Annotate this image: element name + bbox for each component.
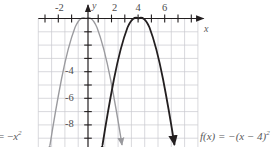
- equation-label-neg-x-squared: = −x2: [0, 130, 22, 142]
- y-axis-label: y: [92, 1, 96, 11]
- x-tick-label-4: 4: [136, 3, 141, 14]
- y-tick-label-minus6: -6: [65, 93, 74, 104]
- x-tick-label-2: 2: [112, 3, 117, 14]
- y-tick-label-minus4: -4: [65, 66, 74, 77]
- equation-right-exponent: 2: [266, 129, 270, 137]
- equation-label-f-of-x: f(x) = −(x − 4)2: [200, 130, 270, 142]
- x-tick-label-6: 6: [162, 3, 167, 14]
- y-tick-label-minus8: -8: [65, 119, 74, 130]
- curve-f-of-x: [103, 18, 175, 145]
- x-axis: [38, 15, 203, 23]
- grid-lines: [38, 19, 198, 148]
- equation-left-prefix: = −: [0, 130, 13, 142]
- curve-neg-x-squared: [50, 18, 122, 145]
- x-axis-label: x: [204, 24, 208, 34]
- x-tick-label-minus2: -2: [55, 3, 64, 14]
- equation-left-exponent: 2: [18, 129, 22, 137]
- y-axis: [84, 5, 92, 147]
- parabola-translation-figure: -2 2 4 6 -4 -6 -8 y x = −x2 f(x) = −(x −…: [0, 0, 276, 147]
- graph-canvas: [0, 0, 276, 147]
- equation-right-arg: (x): [203, 130, 215, 142]
- equation-right-body: = −(x − 4): [215, 130, 266, 142]
